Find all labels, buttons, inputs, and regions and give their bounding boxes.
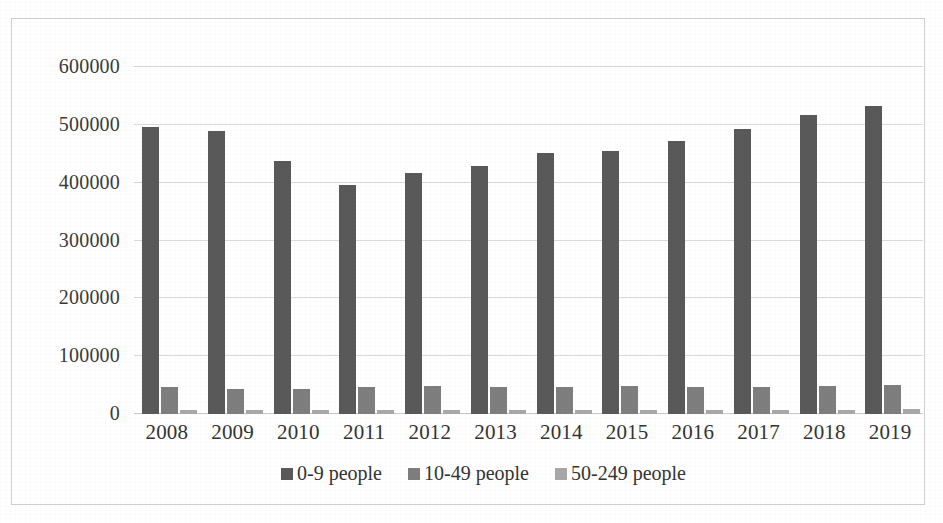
bar-2009-50-249-people[interactable] — [246, 410, 263, 414]
bar-2018-10-49-people[interactable] — [819, 386, 836, 414]
plot-area: 0100000200000300000400000500000600000 20… — [134, 67, 923, 414]
bar-group-2016: 2016 — [660, 67, 726, 414]
bar-2008-10-49-people[interactable] — [161, 387, 178, 414]
bar-2015-10-49-people[interactable] — [621, 386, 638, 414]
bar-group-2012: 2012 — [397, 67, 463, 414]
chart-frame: 0100000200000300000400000500000600000 20… — [11, 18, 925, 505]
bar-2013-10-49-people[interactable] — [490, 387, 507, 414]
y-axis-tick-label: 600000 — [59, 55, 120, 78]
legend-entry-10-49-people[interactable]: 10-49 people — [408, 462, 529, 485]
bar-2012-10-49-people[interactable] — [424, 386, 441, 414]
bar-2009-10-49-people[interactable] — [227, 389, 244, 414]
bar-2010-50-249-people[interactable] — [312, 410, 329, 414]
x-axis-tick-label-2008: 2008 — [134, 420, 200, 445]
x-axis-tick-label-2018: 2018 — [792, 420, 858, 445]
bar-2012-0-9-people[interactable] — [405, 173, 422, 414]
bar-2019-50-249-people[interactable] — [903, 409, 920, 414]
x-axis-tick-label-2010: 2010 — [266, 420, 332, 445]
bar-2011-50-249-people[interactable] — [377, 410, 394, 414]
bar-group-2019: 2019 — [857, 67, 923, 414]
bar-group-2013: 2013 — [463, 67, 529, 414]
bar-2014-50-249-people[interactable] — [575, 410, 592, 414]
bar-group-2017: 2017 — [726, 67, 792, 414]
bar-group-2011: 2011 — [331, 67, 397, 414]
y-axis-tick-label: 400000 — [59, 170, 120, 193]
x-axis-tick-label-2017: 2017 — [726, 420, 792, 445]
bar-2016-10-49-people[interactable] — [687, 387, 704, 414]
bar-2011-0-9-people[interactable] — [339, 185, 356, 414]
bars-layer: 2008200920102011201220132014201520162017… — [134, 67, 923, 414]
bar-group-2014: 2014 — [529, 67, 595, 414]
bar-2017-10-49-people[interactable] — [753, 387, 770, 414]
bar-2009-0-9-people[interactable] — [208, 131, 225, 414]
bar-2015-0-9-people[interactable] — [602, 151, 619, 414]
y-axis-tick-label: 300000 — [59, 228, 120, 251]
bar-2015-50-249-people[interactable] — [640, 410, 657, 414]
bar-2014-0-9-people[interactable] — [537, 153, 554, 414]
y-axis-tick-label: 0 — [110, 402, 120, 425]
bar-2008-50-249-people[interactable] — [180, 410, 197, 414]
legend-entry-0-9-people[interactable]: 0-9 people — [281, 462, 382, 485]
legend-swatch-icon — [281, 468, 293, 480]
y-axis-tick-label: 200000 — [59, 286, 120, 309]
bar-group-2009: 2009 — [200, 67, 266, 414]
bar-2014-10-49-people[interactable] — [556, 387, 573, 414]
y-axis-tick-label: 500000 — [59, 112, 120, 135]
x-axis-tick-label-2014: 2014 — [529, 420, 595, 445]
bar-group-2018: 2018 — [792, 67, 858, 414]
bar-2011-10-49-people[interactable] — [358, 387, 375, 414]
x-axis-tick-label-2012: 2012 — [397, 420, 463, 445]
legend-entry-50-249-people[interactable]: 50-249 people — [555, 462, 686, 485]
bar-2017-50-249-people[interactable] — [772, 410, 789, 414]
legend-label: 0-9 people — [297, 462, 382, 485]
bar-2010-10-49-people[interactable] — [293, 389, 310, 414]
x-axis-tick-label-2016: 2016 — [660, 420, 726, 445]
bar-2012-50-249-people[interactable] — [443, 410, 460, 414]
x-axis-tick-label-2019: 2019 — [857, 420, 923, 445]
bar-2019-0-9-people[interactable] — [865, 106, 882, 414]
bar-2018-0-9-people[interactable] — [800, 115, 817, 414]
legend-swatch-icon — [408, 468, 420, 480]
legend-label: 10-49 people — [424, 462, 529, 485]
x-axis-tick-label-2013: 2013 — [463, 420, 529, 445]
bar-2018-50-249-people[interactable] — [838, 410, 855, 414]
bar-2016-0-9-people[interactable] — [668, 141, 685, 414]
legend-swatch-icon — [555, 468, 567, 480]
bar-2013-50-249-people[interactable] — [509, 410, 526, 414]
bar-2008-0-9-people[interactable] — [142, 127, 159, 414]
bar-2013-0-9-people[interactable] — [471, 166, 488, 414]
bar-2010-0-9-people[interactable] — [274, 161, 291, 414]
bar-group-2015: 2015 — [594, 67, 660, 414]
bar-2019-10-49-people[interactable] — [884, 385, 901, 414]
bar-2017-0-9-people[interactable] — [734, 129, 751, 414]
x-axis-tick-label-2011: 2011 — [331, 420, 397, 445]
chart-legend: 0-9 people10-49 people50-249 people — [12, 462, 943, 485]
bar-2016-50-249-people[interactable] — [706, 410, 723, 414]
legend-label: 50-249 people — [571, 462, 686, 485]
y-axis-tick-label: 100000 — [59, 344, 120, 367]
bar-group-2010: 2010 — [266, 67, 332, 414]
x-axis-tick-label-2015: 2015 — [594, 420, 660, 445]
bar-group-2008: 2008 — [134, 67, 200, 414]
x-axis-tick-label-2009: 2009 — [200, 420, 266, 445]
